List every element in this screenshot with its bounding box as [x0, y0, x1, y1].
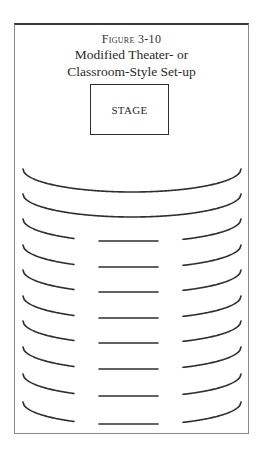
seating-row-full-arc	[23, 169, 241, 192]
seating-row-left-section	[23, 321, 74, 340]
seating-row-right-section	[183, 402, 241, 422]
seating-row-right-section	[183, 296, 241, 316]
seating-row-left-section	[23, 219, 74, 238]
seating-row-left-section	[23, 402, 74, 421]
seating-row-right-section	[183, 374, 241, 394]
seating-row-left-section	[23, 374, 74, 393]
seating-row-left-section	[23, 245, 74, 264]
seating-row-right-section	[183, 219, 241, 239]
seating-row-left-section	[23, 270, 74, 289]
seating-row-right-section	[183, 321, 241, 341]
seating-row-full-arc	[23, 194, 241, 217]
seating-rows-group	[23, 169, 241, 424]
seating-row-right-section	[183, 270, 241, 290]
seating-row-left-section	[23, 296, 74, 315]
seating-rows	[0, 0, 266, 457]
seating-row-right-section	[183, 347, 241, 367]
seating-row-right-section	[183, 245, 241, 265]
seating-row-left-section	[23, 347, 74, 366]
